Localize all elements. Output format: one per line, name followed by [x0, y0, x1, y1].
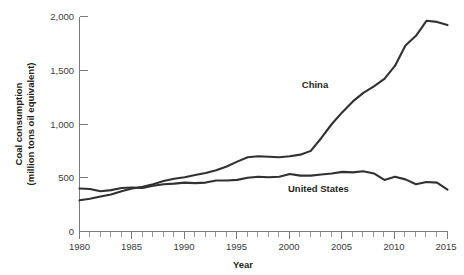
coal-consumption-line-chart: 2,000 1,500 1,000 500 0 — [0, 0, 464, 275]
y-tick-label-1500: 1,500 — [50, 65, 74, 76]
y-tick-label-0: 0 — [69, 226, 74, 237]
x-tick-label-1985: 1985 — [121, 241, 142, 252]
chart-canvas: 2,000 1,500 1,000 500 0 — [0, 0, 464, 275]
y-tick-label-500: 500 — [58, 172, 74, 183]
x-tick-label-2000: 2000 — [278, 241, 299, 252]
x-tick-label-2015: 2015 — [435, 241, 456, 252]
x-tick-label-2005: 2005 — [331, 241, 352, 252]
x-tick-label-1995: 1995 — [226, 241, 247, 252]
series-label-united-states: United States — [288, 183, 349, 194]
y-axis-title-line1: Coal consumption — [13, 82, 24, 165]
x-tick-label-2010: 2010 — [383, 241, 404, 252]
y-tick-label-1000: 1,000 — [50, 119, 74, 130]
x-axis-title: Year — [233, 259, 253, 270]
x-tick-label-1980: 1980 — [69, 241, 90, 252]
y-axis-title-line2: (million tons oil equivalent) — [25, 63, 36, 186]
series-label-china: China — [302, 79, 329, 90]
y-tick-label-2000: 2,000 — [50, 11, 74, 22]
x-tick-label-1990: 1990 — [173, 241, 194, 252]
